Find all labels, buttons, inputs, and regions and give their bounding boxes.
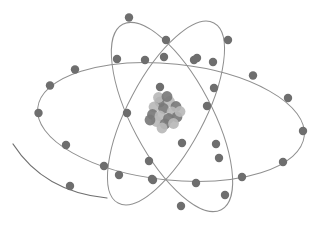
electron-stray (66, 182, 74, 190)
electron-tilted-left-5 (178, 139, 186, 147)
electron-tilted-right-7 (203, 102, 211, 110)
electron-tilted-right-4 (212, 140, 220, 148)
electron-tilted-left-9 (148, 175, 156, 183)
electron-tilted-left-0 (125, 13, 133, 21)
electron-horizontal-11 (192, 179, 200, 187)
electron-tilted-left-3 (156, 83, 164, 91)
electron-horizontal-6 (249, 71, 257, 79)
electron-tilted-right-6 (115, 171, 123, 179)
electron-tilted-left-1 (162, 36, 170, 44)
electron-horizontal-3 (113, 55, 121, 63)
nucleon-neutron-12 (168, 118, 179, 129)
electron-horizontal-13 (100, 162, 108, 170)
electron-tilted-right-2 (141, 56, 149, 64)
electron-tilted-right-5 (221, 191, 229, 199)
electron-tilted-left-6 (145, 157, 153, 165)
electron-tilted-left-8 (177, 202, 185, 210)
electron-tilted-right-3 (123, 109, 131, 117)
electron-tilted-left-7 (215, 154, 223, 162)
electron-horizontal-0 (34, 109, 42, 117)
nucleus-layer (145, 91, 186, 133)
electron-horizontal-2 (71, 65, 79, 73)
nucleon-proton-15 (145, 115, 156, 126)
nucleon-proton-16 (162, 91, 173, 102)
stray-arc-layer (13, 144, 107, 198)
atom-canvas (0, 0, 320, 227)
electron-tilted-right-1 (193, 54, 201, 62)
nucleon-neutron-14 (175, 106, 186, 117)
electron-horizontal-9 (279, 158, 287, 166)
electron-horizontal-1 (46, 81, 54, 89)
stray-arc (13, 144, 107, 198)
electron-horizontal-7 (284, 94, 292, 102)
nucleon-neutron-17 (157, 123, 168, 134)
electron-horizontal-10 (238, 173, 246, 181)
electron-tilted-left-4 (210, 84, 218, 92)
electron-horizontal-8 (299, 127, 307, 135)
atom-diagram (0, 0, 320, 227)
electron-horizontal-5 (209, 58, 217, 66)
electron-horizontal-14 (62, 141, 70, 149)
electron-horizontal-4 (160, 53, 168, 61)
electron-tilted-right-0 (224, 36, 232, 44)
